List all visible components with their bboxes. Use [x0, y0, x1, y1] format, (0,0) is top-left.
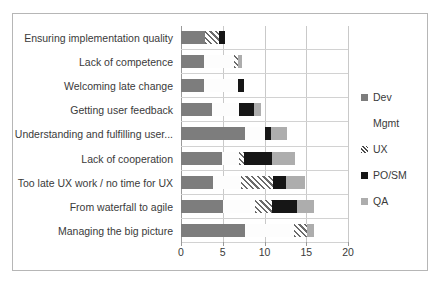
bar-row	[181, 219, 348, 243]
bar-segment-ux[interactable]	[205, 31, 219, 44]
y-axis-label: From waterfall to agile	[70, 195, 173, 219]
bar-segment-po-sm[interactable]	[219, 31, 225, 44]
bar-row	[181, 26, 348, 50]
x-axis-tick-label: 15	[300, 246, 312, 258]
legend-item-po-sm[interactable]: PO/SM	[361, 162, 423, 188]
stacked-bar[interactable]	[181, 31, 348, 44]
legend-item-ux[interactable]: UX	[361, 136, 423, 162]
bar-segment-dev[interactable]	[181, 31, 205, 44]
bar-segment-po-sm[interactable]	[244, 152, 272, 165]
x-axis-tick-mark	[223, 242, 224, 246]
bar-segment-po-sm[interactable]	[239, 103, 254, 116]
y-axis-label: Understanding and fulfilling user...	[15, 122, 173, 146]
bar-segment-mgmt[interactable]	[204, 55, 234, 68]
x-axis-tick-mark	[348, 242, 349, 246]
chart-frame: Ensuring implementation qualityLack of c…	[12, 13, 428, 271]
ux-swatch	[361, 146, 368, 153]
x-axis-tick-label: 0	[178, 246, 184, 258]
x-axis-tick-mark	[265, 242, 266, 246]
x-axis-tick-label: 20	[342, 246, 354, 258]
legend-label: PO/SM	[373, 169, 407, 181]
x-axis-tick-label: 10	[259, 246, 271, 258]
stacked-bar[interactable]	[181, 79, 348, 92]
legend-item-mgmt[interactable]: Mgmt	[361, 110, 423, 136]
y-axis-label: Lack of cooperation	[81, 147, 173, 171]
legend-label: UX	[373, 143, 388, 155]
bar-segment-ux[interactable]	[294, 224, 307, 237]
y-axis-label: Too late UX work / no time for UX	[18, 171, 173, 195]
y-axis-label: Managing the big picture	[58, 219, 173, 243]
stacked-bar[interactable]	[181, 176, 348, 189]
bar-row	[181, 50, 348, 74]
bar-row	[181, 74, 348, 98]
bar-segment-dev[interactable]	[181, 127, 245, 140]
x-axis-tick-mark	[181, 242, 182, 246]
y-axis-label: Ensuring implementation quality	[24, 26, 173, 50]
bar-segment-po-sm[interactable]	[272, 200, 297, 213]
bar-row	[181, 147, 348, 171]
stacked-bar[interactable]	[181, 103, 348, 116]
bar-segment-qa[interactable]	[238, 55, 242, 68]
dev-swatch	[361, 94, 368, 101]
legend-label: QA	[373, 195, 388, 207]
stacked-bar[interactable]	[181, 55, 348, 68]
legend-item-dev[interactable]: Dev	[361, 84, 423, 110]
x-axis-tick-labels: 05101520	[181, 246, 348, 262]
bar-segment-ux[interactable]	[255, 200, 272, 213]
bar-segment-mgmt[interactable]	[222, 152, 239, 165]
bar-segment-mgmt[interactable]	[245, 127, 265, 140]
posm-swatch	[361, 172, 368, 179]
bar-row	[181, 195, 348, 219]
bar-segment-mgmt[interactable]	[223, 200, 256, 213]
bar-segment-qa[interactable]	[254, 103, 262, 116]
bar-segment-qa[interactable]	[307, 224, 314, 237]
bar-segment-qa[interactable]	[286, 176, 304, 189]
bar-segment-dev[interactable]	[181, 79, 204, 92]
bar-row	[181, 171, 348, 195]
bar-segment-dev[interactable]	[181, 55, 204, 68]
bar-segment-po-sm[interactable]	[238, 79, 244, 92]
mgmt-swatch	[361, 120, 368, 127]
bar-segment-qa[interactable]	[272, 152, 295, 165]
bar-row	[181, 98, 348, 122]
bar-segment-mgmt[interactable]	[212, 103, 239, 116]
bar-segment-mgmt[interactable]	[204, 79, 238, 92]
bar-segment-dev[interactable]	[181, 200, 223, 213]
bar-row	[181, 122, 348, 146]
bar-segment-dev[interactable]	[181, 176, 213, 189]
y-axis-label: Getting user feedback	[70, 98, 173, 122]
stacked-bar[interactable]	[181, 152, 348, 165]
stacked-bar[interactable]	[181, 127, 348, 140]
bar-segment-dev[interactable]	[181, 152, 222, 165]
plot-area	[181, 26, 348, 243]
stacked-bar[interactable]	[181, 224, 348, 237]
qa-swatch	[361, 198, 368, 205]
gridline-20	[348, 26, 349, 243]
x-axis-tick-mark	[306, 242, 307, 246]
chart-legend: DevMgmtUXPO/SMQA	[361, 84, 423, 214]
legend-label: Dev	[373, 91, 392, 103]
bar-segment-mgmt[interactable]	[213, 176, 241, 189]
bar-segment-mgmt[interactable]	[245, 224, 293, 237]
bar-segment-dev[interactable]	[181, 103, 212, 116]
bar-segment-dev[interactable]	[181, 224, 245, 237]
y-axis-label: Welcoming late change	[64, 74, 173, 98]
legend-label: Mgmt	[373, 117, 399, 129]
bar-segment-qa[interactable]	[297, 200, 314, 213]
y-axis-category-labels: Ensuring implementation qualityLack of c…	[13, 26, 179, 243]
legend-item-qa[interactable]: QA	[361, 188, 423, 214]
bar-segment-po-sm[interactable]	[273, 176, 286, 189]
bar-segment-ux[interactable]	[241, 176, 273, 189]
bar-segment-qa[interactable]	[271, 127, 287, 140]
x-axis-tick-label: 5	[220, 246, 226, 258]
y-axis-label: Lack of competence	[79, 50, 173, 74]
stacked-bar[interactable]	[181, 200, 348, 213]
